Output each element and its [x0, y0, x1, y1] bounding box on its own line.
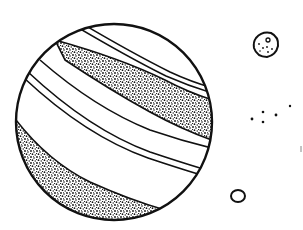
planet-illustration [0, 0, 303, 230]
planet [0, 20, 230, 230]
moon [254, 33, 278, 57]
illustration-canvas: Banded planet with moons [0, 0, 303, 230]
small-ring [231, 190, 245, 202]
star-dots [251, 105, 292, 123]
